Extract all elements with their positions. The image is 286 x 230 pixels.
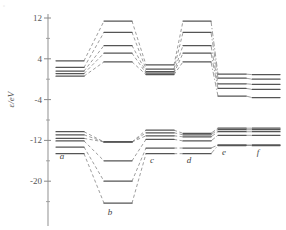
connector	[246, 74, 252, 75]
connector	[84, 135, 104, 142]
orbital-correlation-diagram: 124-4-12-20 abcdef ° ε/eV	[0, 0, 286, 230]
connector	[84, 62, 104, 76]
connector	[132, 154, 146, 203]
connector	[84, 53, 104, 73]
connector	[211, 145, 218, 148]
connector	[84, 141, 104, 161]
connector	[132, 139, 146, 160]
column-label-b: b	[108, 207, 113, 217]
connector	[174, 62, 183, 75]
connector	[132, 148, 146, 181]
connector	[211, 53, 218, 88]
column-label-a: a	[60, 151, 65, 161]
connector	[84, 154, 104, 203]
connector	[84, 132, 104, 142]
corner-mark: °	[3, 4, 5, 9]
y-tick-label-3: -12	[30, 135, 42, 145]
column-label-e: e	[222, 147, 226, 157]
axis-title: ε/eV	[6, 90, 16, 107]
connector	[174, 139, 183, 141]
connector	[132, 53, 146, 73]
y-tick-label-2: -4	[35, 95, 43, 105]
y-tick-label-4: -20	[30, 176, 42, 186]
connector	[246, 78, 252, 79]
column-label-d: d	[187, 155, 192, 165]
y-tick-label-1: 4	[38, 54, 43, 64]
connector	[246, 84, 252, 85]
connector	[84, 46, 104, 72]
column-label-c: c	[150, 155, 154, 165]
energy-levels	[56, 21, 280, 203]
connector	[132, 136, 146, 142]
column-label-f: f	[257, 147, 261, 157]
level-connectors	[84, 21, 252, 203]
connector	[84, 147, 104, 181]
y-tick-label-0: 12	[33, 13, 42, 23]
connector	[132, 21, 146, 65]
connector	[174, 136, 183, 137]
connector	[246, 88, 252, 89]
connector	[84, 32, 104, 67]
connector	[211, 32, 218, 78]
y-axis: 124-4-12-20	[30, 13, 51, 226]
connector	[246, 96, 252, 98]
diagram-canvas: 124-4-12-20 abcdef ° ε/eV	[0, 0, 286, 230]
connector	[84, 21, 104, 61]
